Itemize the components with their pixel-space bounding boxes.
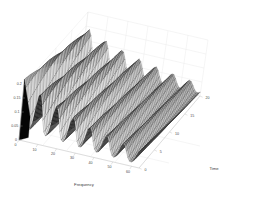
x-tick-0: 0 [15, 143, 17, 147]
z-tick-3: 0.15 [14, 96, 21, 100]
surface-plot: 0 0.05 0.1 0.15 0.2 0 10 20 30 40 50 60 … [0, 0, 253, 202]
z-tick-2: 0.1 [14, 110, 19, 114]
z-tick-0: 0 [15, 138, 17, 142]
figure-canvas: 0 0.05 0.1 0.15 0.2 0 10 20 30 40 50 60 … [0, 0, 253, 202]
x-tick-1: 10 [32, 148, 36, 152]
x-tick-6: 60 [126, 170, 130, 174]
z-tick-1: 0.05 [11, 124, 18, 128]
y-tick-2: 10 [175, 132, 179, 136]
x-tick-2: 20 [51, 152, 55, 156]
y-tick-4: 20 [206, 96, 210, 100]
y-tick-1: 5 [160, 150, 162, 154]
x-axis-title: Frequency [74, 182, 95, 187]
y-tick-0: 0 [145, 168, 147, 172]
y-axis-title: Time [209, 166, 219, 171]
y-tick-3: 15 [190, 114, 194, 118]
x-tick-3: 30 [70, 156, 74, 160]
z-tick-4: 0.2 [17, 82, 22, 86]
x-tick-4: 40 [89, 161, 93, 165]
x-tick-5: 50 [107, 165, 111, 169]
